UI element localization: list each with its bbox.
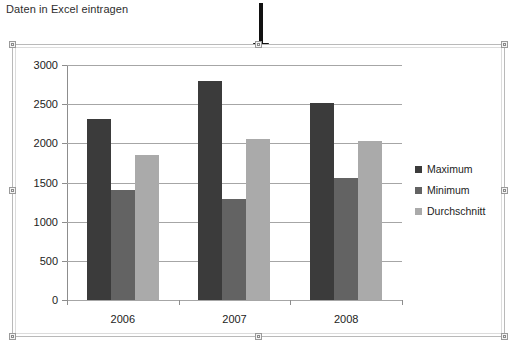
- excel-chart-object[interactable]: 050010001500200025003000 200620072008 Ma…: [12, 44, 505, 337]
- chart-legend[interactable]: MaximumMinimumDurchschnitt: [415, 163, 485, 217]
- resize-handle-bottom-left[interactable]: [9, 333, 16, 340]
- legend-swatch-icon: [415, 208, 422, 215]
- chart-canvas: 050010001500200025003000 200620072008 Ma…: [13, 45, 504, 336]
- bar-maximum-2007[interactable]: [198, 81, 222, 300]
- y-axis-label: 3000: [34, 59, 58, 71]
- bar-group: [290, 65, 402, 300]
- x-axis-tick: [67, 300, 68, 305]
- bar-minimum-2008[interactable]: [334, 178, 358, 300]
- y-axis-label: 1000: [34, 216, 58, 228]
- page-title: Daten in Excel eintragen: [6, 3, 128, 15]
- legend-label: Minimum: [427, 184, 470, 196]
- x-axis-tick: [290, 300, 291, 305]
- resize-handle-top-middle[interactable]: [255, 41, 262, 48]
- legend-swatch-icon: [415, 166, 422, 173]
- bar-minimum-2007[interactable]: [222, 199, 246, 300]
- y-axis-label: 2000: [34, 137, 58, 149]
- bar-group: [67, 65, 179, 300]
- x-axis-tick: [402, 300, 403, 305]
- bar-durchschnitt-2007[interactable]: [246, 139, 270, 300]
- bar-maximum-2006[interactable]: [87, 119, 111, 300]
- x-axis-label-2007: 2007: [222, 313, 246, 325]
- bar-durchschnitt-2006[interactable]: [135, 155, 159, 300]
- legend-label: Durchschnitt: [427, 205, 485, 217]
- y-axis-label: 1500: [34, 177, 58, 189]
- legend-item-durchschnitt[interactable]: Durchschnitt: [415, 205, 485, 217]
- resize-handle-middle-right[interactable]: [501, 187, 508, 194]
- legend-item-minimum[interactable]: Minimum: [415, 184, 485, 196]
- legend-item-maximum[interactable]: Maximum: [415, 163, 485, 175]
- x-axis-label-2006: 2006: [111, 313, 135, 325]
- plot-area: 050010001500200025003000 200620072008: [67, 65, 402, 300]
- resize-handle-top-right[interactable]: [501, 41, 508, 48]
- bar-maximum-2008[interactable]: [310, 103, 334, 300]
- resize-handle-top-left[interactable]: [9, 41, 16, 48]
- y-axis-label: 0: [52, 294, 58, 306]
- gridline: [67, 300, 402, 301]
- x-axis-label-2008: 2008: [334, 313, 358, 325]
- x-axis-tick: [179, 300, 180, 305]
- y-axis-label: 2500: [34, 98, 58, 110]
- bar-minimum-2006[interactable]: [111, 190, 135, 300]
- legend-label: Maximum: [427, 163, 473, 175]
- legend-swatch-icon: [415, 187, 422, 194]
- bar-series-container: 200620072008: [67, 65, 402, 300]
- resize-handle-bottom-right[interactable]: [501, 333, 508, 340]
- bar-group: [179, 65, 291, 300]
- resize-handle-middle-left[interactable]: [9, 187, 16, 194]
- resize-handle-bottom-middle[interactable]: [255, 333, 262, 340]
- y-axis-label: 500: [40, 255, 58, 267]
- bar-durchschnitt-2008[interactable]: [358, 141, 382, 300]
